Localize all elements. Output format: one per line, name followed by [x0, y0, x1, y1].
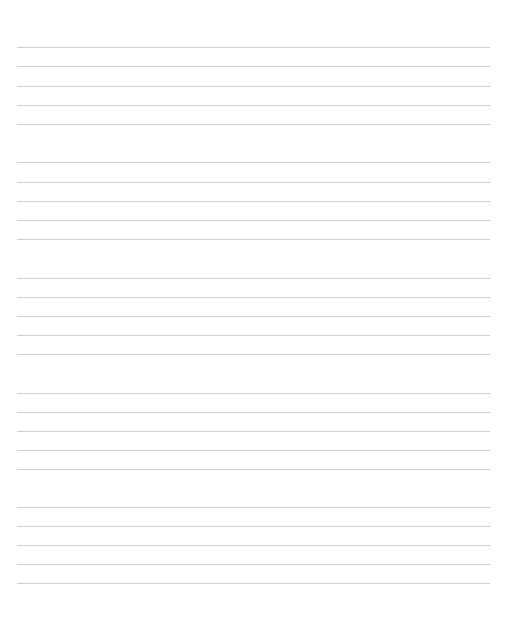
ruled-line: [17, 47, 490, 48]
ruled-line: [17, 393, 490, 394]
ruled-line: [17, 412, 490, 413]
ruled-line: [17, 124, 490, 125]
ruled-line: [17, 564, 490, 565]
ruled-line: [17, 431, 490, 432]
ruled-line: [17, 583, 490, 584]
ruled-line: [17, 507, 490, 508]
ruled-line: [17, 201, 490, 202]
ruled-line: [17, 86, 490, 87]
ruled-line: [17, 105, 490, 106]
ruled-line: [17, 354, 490, 355]
ruled-line: [17, 162, 490, 163]
ruled-line: [17, 469, 490, 470]
ruled-line: [17, 66, 490, 67]
ruled-line: [17, 297, 490, 298]
ruled-line: [17, 278, 490, 279]
ruled-line: [17, 335, 490, 336]
ruled-line: [17, 450, 490, 451]
ruled-line: [17, 239, 490, 240]
ruled-line: [17, 220, 490, 221]
ruled-line: [17, 316, 490, 317]
ruled-line: [17, 545, 490, 546]
ruled-line: [17, 526, 490, 527]
ruled-line: [17, 182, 490, 183]
lined-page: [0, 0, 516, 620]
